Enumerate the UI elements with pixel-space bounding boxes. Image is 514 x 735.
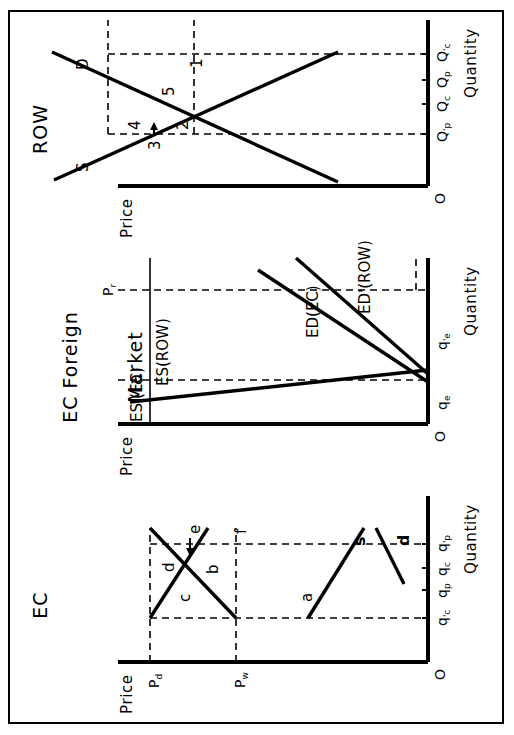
figure-page: EC Price Quantity O Pd Pw q'c qp (0, 0, 514, 735)
three-panel-figure: EC Price Quantity O Pd Pw q'c qp (8, 10, 504, 724)
panel-ec-supply-curve-upper (150, 528, 236, 618)
panel-foreign-plot (8, 248, 504, 486)
panel-ec: EC Price Quantity O Pd Pw q'c qp (8, 486, 504, 724)
panel-ec-supply-curve-lower (308, 528, 364, 618)
panel-foreign-curve-ed-prime-row (296, 258, 428, 374)
panel-foreign-curve-es-row (130, 370, 428, 402)
panel-ec-demand-curve-upper (150, 528, 208, 618)
panel-row-pointer-3-arrow (150, 122, 158, 130)
panel-row-plot (8, 10, 504, 248)
panel-ec-plot (8, 486, 504, 724)
panel-ec-demand-curve-lower (376, 528, 404, 584)
figure-rotation-wrapper: EC Price Quantity O Pd Pw q'c qp (8, 10, 504, 724)
panel-foreign-market: EC Foreign Market Price Quantity O qe q'… (8, 248, 504, 486)
panel-row: ROW Price Quantity O Q'p Qc Qp Q'c S D (8, 10, 504, 248)
panel-foreign-curve-ed-ec (258, 270, 428, 382)
